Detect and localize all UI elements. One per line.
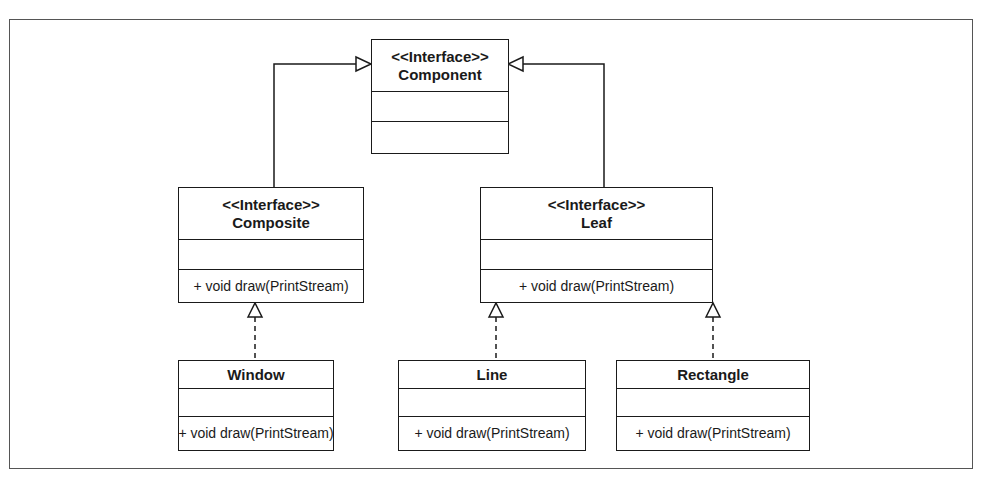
operation-label: + void draw(PrintStream) (635, 425, 790, 441)
class-header: <<Interface>> Leaf (481, 188, 712, 240)
operations-compartment: + void draw(PrintStream) (179, 417, 333, 449)
attributes-compartment (179, 389, 333, 417)
stereotype-label: <<Interface>> (548, 196, 646, 214)
class-header: <<Interface>> Component (372, 40, 508, 92)
attributes-compartment (399, 389, 585, 417)
realization-rectangle-leaf (706, 303, 720, 360)
operation-label: + void draw(PrintStream) (178, 425, 333, 441)
class-rectangle: Rectangle + void draw(PrintStream) (616, 360, 810, 451)
operations-compartment (372, 122, 508, 152)
class-window: Window + void draw(PrintStream) (178, 360, 334, 451)
class-composite: <<Interface>> Composite + void draw(Prin… (178, 187, 364, 303)
class-leaf: <<Interface>> Leaf + void draw(PrintStre… (480, 187, 713, 303)
class-name: Line (477, 366, 508, 384)
class-header: Rectangle (617, 361, 809, 389)
class-name: Window (227, 366, 284, 384)
realization-line-leaf (489, 303, 503, 360)
class-line: Line + void draw(PrintStream) (398, 360, 586, 451)
class-name: Component (398, 66, 481, 84)
operations-compartment: + void draw(PrintStream) (399, 417, 585, 449)
class-header: Line (399, 361, 585, 389)
operations-compartment: + void draw(PrintStream) (481, 270, 712, 301)
generalization-composite-component (274, 57, 371, 187)
attributes-compartment (617, 389, 809, 417)
realization-window-composite (248, 303, 262, 360)
operation-label: + void draw(PrintStream) (519, 278, 674, 294)
stereotype-label: <<Interface>> (222, 196, 320, 214)
class-header: Window (179, 361, 333, 389)
attributes-compartment (481, 240, 712, 270)
operation-label: + void draw(PrintStream) (193, 278, 348, 294)
attributes-compartment (372, 92, 508, 122)
operations-compartment: + void draw(PrintStream) (179, 270, 363, 301)
operation-label: + void draw(PrintStream) (414, 425, 569, 441)
class-header: <<Interface>> Composite (179, 188, 363, 240)
class-component: <<Interface>> Component (371, 39, 509, 154)
operations-compartment: + void draw(PrintStream) (617, 417, 809, 449)
class-name: Rectangle (677, 366, 749, 384)
class-name: Leaf (581, 214, 612, 232)
class-name: Composite (232, 214, 310, 232)
attributes-compartment (179, 240, 363, 270)
stereotype-label: <<Interface>> (391, 48, 489, 66)
generalization-leaf-component (508, 57, 604, 187)
